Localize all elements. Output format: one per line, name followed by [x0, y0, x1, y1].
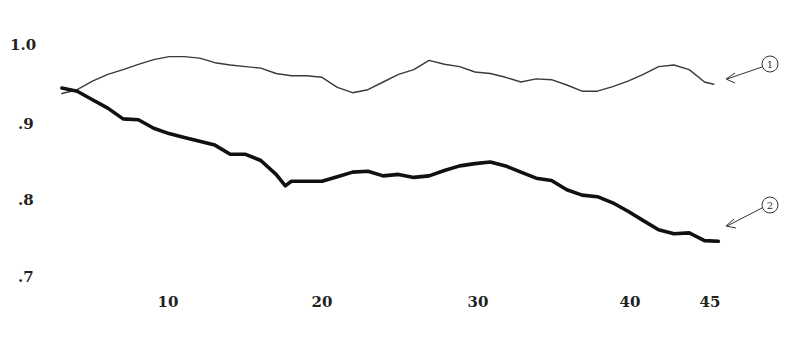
y-tick-1-0: 1.0: [10, 36, 36, 54]
callout-2: 2: [726, 197, 778, 228]
callout-1-arrow: [727, 67, 762, 79]
series-1-line: [62, 57, 714, 94]
x-tick-30: 30: [468, 293, 489, 311]
line-chart: 1.0 .9 .8 .7 10 20 30 40 45 1 2: [0, 0, 801, 348]
callout-1: 1: [726, 56, 778, 83]
x-tick-10: 10: [158, 293, 179, 311]
callout-1-label: 1: [767, 59, 773, 70]
x-tick-40: 40: [620, 293, 641, 311]
y-tick-0-9: .9: [18, 115, 34, 133]
x-tick-20: 20: [312, 293, 333, 311]
x-axis-labels: 10 20 30 40 45: [158, 293, 721, 311]
y-tick-0-7: .7: [18, 268, 34, 286]
y-axis-labels: 1.0 .9 .8 .7: [10, 36, 36, 286]
callout-2-label: 2: [767, 200, 773, 211]
x-tick-45: 45: [700, 293, 721, 311]
series-2-line: [62, 88, 718, 241]
y-tick-0-8: .8: [18, 191, 34, 209]
callout-2-arrow: [727, 208, 762, 226]
